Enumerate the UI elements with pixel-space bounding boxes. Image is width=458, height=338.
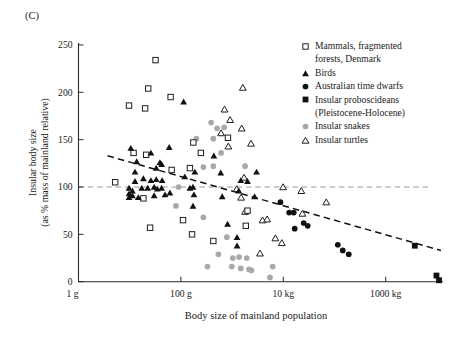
point-insular-snakes (267, 275, 273, 281)
point-insular-turtles (298, 188, 305, 194)
y-axis-label-line1: Insular body size (27, 13, 39, 313)
point-birds (144, 185, 151, 191)
point-insular-snakes (270, 264, 276, 270)
point-mammals-fragmented-forests-denmark (146, 86, 151, 91)
point-insular-snakes (249, 267, 255, 273)
point-insular-snakes (224, 234, 230, 240)
x-tick-label: 1000 kg (370, 288, 401, 299)
point-insular-snakes (216, 251, 222, 257)
point-australian-time-dwarfs (346, 251, 352, 257)
point-mammals-fragmented-forests-denmark (142, 106, 147, 111)
point-insular-snakes (229, 264, 235, 270)
open-triangle-glyph (302, 137, 309, 143)
point-birds (133, 158, 140, 164)
point-birds (132, 178, 139, 184)
point-australian-time-dwarfs (335, 242, 341, 248)
figure-panel-c: { "panel_label": "(C)", "colors": { "bla… (0, 0, 458, 338)
legend-item-proboscideans: Insular proboscideans (Pleistocene-Holoc… (300, 93, 405, 120)
point-birds (158, 185, 165, 191)
point-insular-proboscideans-pleistocene-holocene (412, 243, 418, 249)
filled-circle-icon (300, 81, 311, 92)
point-insular-snakes (221, 124, 227, 130)
point-mammals-fragmented-forests-denmark (245, 208, 250, 213)
point-insular-turtles (238, 125, 245, 131)
point-birds (153, 176, 160, 182)
point-mammals-fragmented-forests-denmark (187, 165, 192, 170)
point-insular-turtles (248, 140, 255, 146)
point-insular-snakes (210, 163, 216, 169)
x-tick-label: 10 kg (273, 288, 295, 299)
legend-label: Insular turtles (315, 133, 368, 146)
point-birds (234, 234, 241, 240)
legend-label: Insular snakes (315, 119, 370, 132)
point-birds (148, 177, 155, 183)
point-mammals-fragmented-forests-denmark (191, 140, 196, 145)
point-australian-time-dwarfs (305, 223, 311, 229)
series-birds (126, 99, 260, 249)
point-mammals-fragmented-forests-denmark (243, 223, 248, 228)
point-insular-snakes (244, 255, 250, 261)
filled-square-icon (300, 94, 311, 105)
point-birds (210, 153, 217, 159)
filled-triangle-icon (300, 68, 311, 79)
point-birds (191, 191, 198, 197)
x-tick-label: 1 g (67, 288, 79, 299)
point-mammals-fragmented-forests-denmark (225, 135, 230, 140)
point-birds (153, 165, 160, 171)
point-insular-snakes (201, 164, 207, 170)
point-insular-turtles (264, 216, 271, 222)
filled-circle-glyph (303, 84, 309, 90)
open-square-icon (300, 41, 311, 52)
point-mammals-fragmented-forests-denmark (141, 196, 146, 201)
point-birds (253, 169, 260, 175)
point-birds (217, 170, 224, 176)
point-insular-snakes (218, 150, 224, 156)
point-birds (219, 193, 226, 199)
point-insular-snakes (236, 254, 242, 260)
point-insular-turtles (239, 84, 246, 90)
legend-label: Australian time dwarfs (315, 79, 403, 92)
point-birds (167, 189, 174, 195)
point-birds (234, 243, 241, 249)
legend-label: Birds (315, 66, 336, 79)
point-birds (166, 144, 173, 150)
point-australian-time-dwarfs (278, 199, 284, 205)
point-birds (138, 185, 145, 191)
point-insular-snakes (205, 264, 211, 270)
point-insular-turtles (257, 250, 264, 256)
x-tick-label: 100 g (170, 288, 192, 299)
point-insular-snakes (230, 255, 236, 261)
point-insular-turtles (225, 143, 232, 149)
point-insular-turtles (323, 199, 330, 205)
x-axis-label: Body size of mainland population (106, 310, 406, 321)
point-birds (180, 99, 187, 105)
point-insular-snakes (208, 120, 214, 126)
point-birds (127, 145, 134, 151)
point-insular-turtles (278, 240, 285, 246)
point-mammals-fragmented-forests-denmark (147, 225, 152, 230)
legend-label: Insular proboscideans (315, 93, 405, 106)
y-tick-label: 200 (58, 87, 73, 98)
point-mammals-fragmented-forests-denmark (169, 167, 174, 172)
point-insular-proboscideans-pleistocene-holocene (436, 277, 442, 283)
point-mammals-fragmented-forests-denmark (112, 180, 117, 185)
gray-circle-glyph (303, 124, 309, 130)
point-insular-snakes (242, 163, 248, 169)
open-square-glyph (303, 44, 308, 49)
filled-square-glyph (303, 97, 309, 103)
point-australian-time-dwarfs (340, 248, 346, 254)
point-insular-snakes (176, 184, 182, 190)
legend-item-australian-time-dwarfs: Australian time dwarfs (300, 79, 405, 92)
point-mammals-fragmented-forests-denmark (198, 150, 203, 155)
point-mammals-fragmented-forests-denmark (180, 217, 185, 222)
point-insular-turtles (272, 235, 279, 241)
open-triangle-icon (300, 135, 311, 146)
legend-item-mammals: Mammals, fragmented forests, Denmark (300, 39, 405, 66)
point-insular-snakes (201, 214, 207, 220)
point-birds (190, 203, 197, 209)
point-insular-snakes (214, 125, 220, 131)
point-mammals-fragmented-forests-denmark (168, 94, 173, 99)
point-birds (132, 169, 139, 175)
point-mammals-fragmented-forests-denmark (131, 150, 136, 155)
legend: Mammals, fragmented forests, Denmark Bir… (300, 39, 405, 146)
